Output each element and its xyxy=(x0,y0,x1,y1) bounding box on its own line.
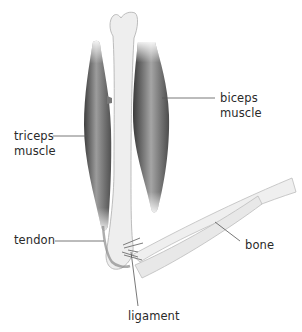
biceps-muscle xyxy=(133,42,169,213)
triceps-label: triceps muscle xyxy=(14,129,56,159)
triceps-label-line2: muscle xyxy=(14,144,56,159)
ligament-leader xyxy=(131,252,138,306)
triceps-label-line1: triceps xyxy=(14,129,56,144)
tendon-label: tendon xyxy=(14,233,55,248)
biceps-label: biceps muscle xyxy=(220,91,262,121)
bone-label: bone xyxy=(245,238,274,253)
biceps-label-line2: muscle xyxy=(220,106,262,121)
triceps-muscle xyxy=(84,41,111,231)
elbow-anatomy-diagram xyxy=(0,0,302,332)
biceps-label-line1: biceps xyxy=(220,91,262,106)
ligament-label: ligament xyxy=(128,309,180,324)
